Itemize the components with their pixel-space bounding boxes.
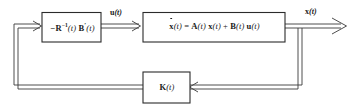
matrix-K-argument: (t)	[166, 82, 174, 92]
derivative-dot-icon	[171, 18, 173, 20]
x-dot-letter: x	[169, 21, 173, 31]
signal-u-argument: (t)	[114, 8, 122, 17]
plant-matrix-B-argument: (t)	[236, 21, 244, 31]
equals-sign: =	[184, 21, 189, 31]
gain-input-arrowhead-icon	[190, 82, 199, 92]
state-signal-x-label: x(t)	[305, 8, 317, 16]
x-dot-argument: (t)	[174, 21, 182, 31]
matrix-R-argument: (t)	[68, 23, 76, 33]
gain-block-label: K(t)	[144, 83, 190, 92]
controller-block-label: −R−1(t) B′(t)	[44, 22, 101, 32]
block-diagram-canvas: −R−1(t) B′(t) x(t) = A(t) x(t) + B(t) u(…	[0, 0, 349, 108]
feedback-arrowhead-icon	[33, 21, 42, 31]
plant-block-label: x(t) = A(t) x(t) + B(t) u(t)	[144, 22, 285, 31]
input-u-argument: (t)	[251, 21, 259, 31]
matrix-B-argument: (t)	[86, 23, 94, 33]
matrix-A-argument: (t)	[198, 21, 206, 31]
state-x-argument: (t)	[213, 21, 221, 31]
signal-x-argument: (t)	[309, 7, 317, 16]
control-arrowhead-icon	[132, 21, 141, 31]
x-dot-symbol: x	[169, 22, 173, 31]
control-signal-u-label: u(t)	[110, 9, 122, 17]
state-output-arrowhead-icon	[332, 18, 347, 34]
plus-sign: +	[223, 21, 228, 31]
